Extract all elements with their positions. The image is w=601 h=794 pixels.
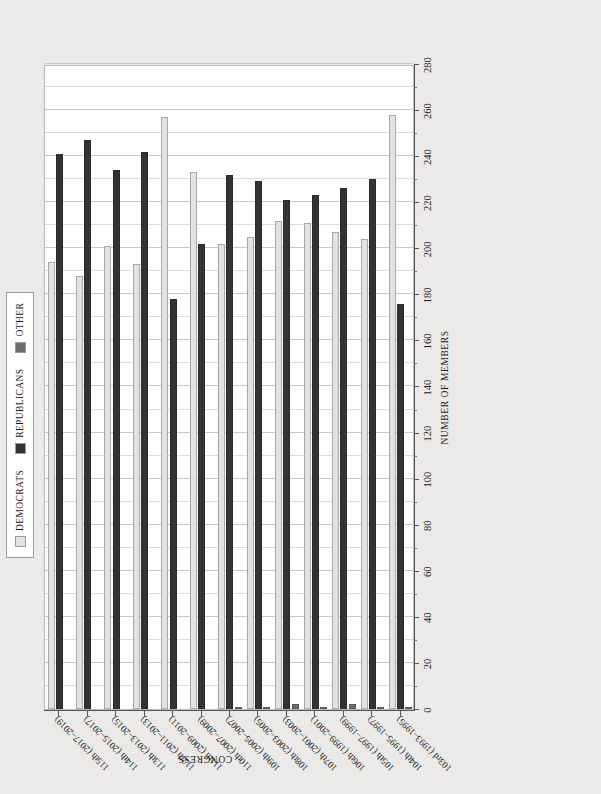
value-tick [414, 64, 419, 65]
bar-republicans [198, 244, 205, 709]
value-tick-label: 80 [422, 520, 433, 531]
bar-group [330, 66, 358, 709]
value-tick [414, 479, 419, 480]
value-tick-label: 20 [422, 659, 433, 670]
value-tick-label: 140 [422, 380, 433, 396]
bar-democrats [104, 246, 111, 709]
legend-label-other: OTHER [15, 303, 25, 337]
bar-group [187, 66, 215, 709]
legend-item-other: OTHER [15, 303, 26, 353]
value-axis-title: NUMBER OF MEMBERS [440, 65, 450, 710]
democrats-swatch-icon [15, 536, 26, 547]
bar-republicans [255, 181, 262, 709]
value-tick [414, 525, 419, 526]
bar-group [244, 66, 272, 709]
bar-republicans [312, 195, 319, 709]
bar-republicans [340, 188, 347, 709]
bar-democrats [389, 115, 396, 709]
bar-republicans [283, 200, 290, 709]
bar-other [405, 707, 412, 709]
value-tick-label: 180 [422, 287, 433, 303]
bar-group [273, 66, 301, 709]
value-tick-minor [414, 686, 417, 687]
bar-democrats [332, 232, 339, 709]
value-tick [414, 387, 419, 388]
value-tick-minor [414, 133, 417, 134]
legend-item-republicans: REPUBLICANS [15, 369, 26, 454]
value-tick [414, 294, 419, 295]
bar-group [45, 66, 73, 709]
gridline [45, 63, 413, 64]
bar-republicans [369, 179, 376, 709]
value-tick-minor [414, 640, 417, 641]
bar-group [159, 66, 187, 709]
value-tick-label: 40 [422, 613, 433, 624]
bar-other [235, 707, 242, 709]
bar-other [377, 707, 384, 709]
value-axis: 020406080100120140160180200220240260280 [414, 65, 415, 710]
bar-democrats [190, 172, 197, 709]
value-tick [414, 156, 419, 157]
bar-group [216, 66, 244, 709]
value-tick-label: 120 [422, 426, 433, 442]
bar-other [320, 707, 327, 709]
republicans-swatch-icon [15, 443, 26, 454]
bar-group [387, 66, 415, 709]
value-tick [414, 340, 419, 341]
value-tick-label: 260 [422, 103, 433, 119]
value-tick-minor [414, 225, 417, 226]
value-tick-label: 60 [422, 567, 433, 578]
value-tick [414, 571, 419, 572]
value-tick [414, 617, 419, 618]
value-tick-minor [414, 594, 417, 595]
bar-democrats [275, 221, 282, 709]
legend-label-republicans: REPUBLICANS [15, 369, 25, 438]
bar-democrats [218, 244, 225, 709]
value-tick [414, 663, 419, 664]
bar-series-container [45, 66, 413, 709]
bar-democrats [361, 239, 368, 709]
bar-democrats [48, 262, 55, 709]
value-tick-label: 160 [422, 334, 433, 350]
value-tick-minor [414, 502, 417, 503]
legend-item-democrats: DEMOCRATS [15, 470, 26, 547]
plot-area [44, 65, 414, 710]
bar-republicans [170, 299, 177, 709]
bar-other [292, 704, 299, 709]
bar-democrats [304, 223, 311, 709]
bar-republicans [56, 154, 63, 709]
value-tick-label: 240 [422, 149, 433, 165]
bar-group [102, 66, 130, 709]
chart-legend: DEMOCRATS REPUBLICANS OTHER [6, 292, 34, 558]
bar-republicans [397, 304, 404, 709]
bar-group [73, 66, 101, 709]
bar-democrats [133, 264, 140, 709]
value-tick-minor [414, 456, 417, 457]
bar-democrats [247, 237, 254, 709]
value-tick-label: 0 [422, 707, 433, 712]
chart-canvas: DEMOCRATS REPUBLICANS OTHER 020406080100… [0, 0, 601, 794]
value-tick [414, 202, 419, 203]
bar-group [301, 66, 329, 709]
legend-label-democrats: DEMOCRATS [15, 470, 25, 531]
bar-republicans [226, 175, 233, 709]
value-tick-minor [414, 271, 417, 272]
value-tick-minor [414, 317, 417, 318]
other-swatch-icon [15, 342, 26, 353]
bar-republicans [113, 170, 120, 709]
value-tick-minor [414, 410, 417, 411]
bar-democrats [76, 276, 83, 709]
bar-republicans [141, 152, 148, 709]
value-tick-minor [414, 87, 417, 88]
value-tick-minor [414, 363, 417, 364]
bar-other [263, 707, 270, 709]
value-tick-minor [414, 179, 417, 180]
value-tick [414, 433, 419, 434]
value-tick-label: 100 [422, 472, 433, 488]
bar-republicans [84, 140, 91, 709]
category-axis-title: CONGRESS [178, 754, 232, 764]
value-tick-minor [414, 548, 417, 549]
bar-group [130, 66, 158, 709]
bar-other [349, 704, 356, 709]
value-tick [414, 110, 419, 111]
